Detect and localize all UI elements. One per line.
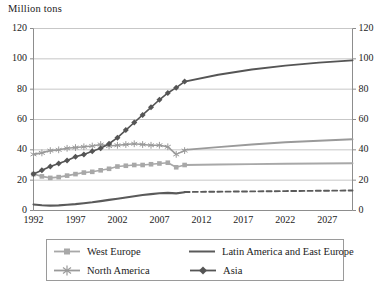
y-axis-label-right: 20: [359, 174, 385, 185]
y-axis-label-left: 40: [1, 143, 27, 154]
y-axis-label-left: 80: [1, 83, 27, 94]
legend-swatch-west-europe: [54, 246, 80, 257]
x-axis-label: 1997: [54, 214, 96, 225]
x-axis-label: 2017: [222, 214, 264, 225]
y-axis-label-left: 120: [1, 22, 27, 33]
x-axis-label: 1992: [13, 214, 55, 225]
legend-swatch-north-america: [54, 265, 80, 276]
legend-label-north-america: North America: [87, 265, 150, 276]
legend-swatch-asia: [190, 265, 216, 276]
x-axis-label: 2012: [180, 214, 222, 225]
x-axis-label: 2007: [138, 214, 180, 225]
x-axis-label: 2022: [264, 214, 306, 225]
y-axis-label-right: 0: [359, 204, 385, 215]
y-axis-label-right: 80: [359, 83, 385, 94]
x-axis-label: 2027: [306, 214, 348, 225]
y-axis-label-left: 20: [1, 174, 27, 185]
legend-label-latin-america: Latin America and East Europe: [222, 246, 354, 257]
legend-label-asia: Asia: [223, 265, 242, 276]
y-axis-label-right: 60: [359, 113, 385, 124]
legend-swatch-latin-america: [189, 246, 215, 257]
legend-item-asia[interactable]: Asia: [186, 261, 343, 280]
chart-container: Million tons West Europe Latin America a…: [0, 0, 386, 288]
legend-row-1: West Europe Latin America and East Europ…: [47, 242, 343, 261]
y-axis-label-left: 100: [1, 52, 27, 63]
legend-label-west-europe: West Europe: [87, 246, 141, 257]
series-latin-america-and-east-europe: [34, 190, 353, 205]
y-axis-label-right: 40: [359, 143, 385, 154]
legend-item-west-europe[interactable]: West Europe: [47, 242, 185, 261]
y-axis-label-left: 60: [1, 113, 27, 124]
legend-row-2: North America Asia: [47, 261, 343, 280]
legend-item-latin-america[interactable]: Latin America and East Europe: [185, 242, 343, 261]
chart-legend: West Europe Latin America and East Europ…: [46, 239, 344, 281]
y-axis-label-right: 100: [359, 52, 385, 63]
series-west-europe: [31, 160, 352, 180]
x-axis-label: 2002: [96, 214, 138, 225]
legend-item-north-america[interactable]: North America: [47, 261, 186, 280]
y-axis-label-right: 120: [359, 22, 385, 33]
series-asia: [31, 60, 353, 177]
